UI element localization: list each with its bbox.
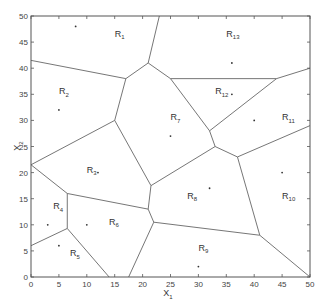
- voronoi-edge: [31, 60, 126, 78]
- voronoi-edge: [115, 79, 126, 121]
- x-tick-label: 40: [250, 280, 259, 289]
- site-point-r11: [253, 120, 255, 122]
- axis-ticks: 0510152025303540455005101520253035404550: [19, 12, 315, 289]
- region-label-r13: R13: [226, 29, 240, 41]
- site-point-r1: [75, 26, 77, 28]
- svg-text:X1: X1: [163, 288, 173, 300]
- x-tick-label: 15: [110, 280, 119, 289]
- region-label-r5: R5: [70, 248, 81, 260]
- region-label-r7: R7: [171, 112, 182, 124]
- y-tick-label: 10: [19, 221, 28, 230]
- x-tick-label: 10: [82, 280, 91, 289]
- x-tick-label: 5: [57, 280, 62, 289]
- site-point-r7: [170, 135, 172, 137]
- x-tick-label: 50: [306, 280, 315, 289]
- site-point-r3: [97, 172, 99, 174]
- voronoi-edge: [237, 126, 310, 157]
- voronoi-edge: [31, 165, 67, 194]
- region-label-r4: R4: [53, 201, 64, 213]
- voronoi-edge: [126, 63, 148, 79]
- y-tick-label: 15: [19, 195, 28, 204]
- site-point-r6: [86, 224, 88, 226]
- voronoi-edge: [31, 228, 67, 245]
- voronoi-edges: [31, 16, 310, 277]
- site-point-r4: [47, 224, 49, 226]
- region-label-r11: R11: [282, 112, 295, 124]
- voronoi-edge: [154, 222, 260, 235]
- voronoi-edge: [148, 186, 151, 209]
- plot-frame: [31, 16, 310, 277]
- voronoi-edge: [148, 16, 159, 63]
- x-tick-label: 35: [222, 280, 231, 289]
- voronoi-edge: [148, 63, 170, 79]
- y-tick-label: 45: [19, 38, 28, 47]
- site-point-r12: [231, 93, 233, 95]
- region-label-r8: R8: [187, 191, 198, 203]
- site-point-r9: [198, 266, 200, 268]
- y-tick-label: 35: [19, 90, 28, 99]
- y-tick-label: 0: [24, 273, 29, 282]
- x-tick-label: 45: [278, 280, 287, 289]
- voronoi-sites: [47, 26, 283, 268]
- region-label-r3: R3: [87, 165, 98, 177]
- y-tick-label: 5: [24, 247, 29, 256]
- site-point-r5: [58, 245, 60, 247]
- y-tick-label: 50: [19, 12, 28, 21]
- x-axis-label: X1: [163, 288, 173, 300]
- voronoi-edge: [67, 193, 148, 209]
- voronoi-edge: [237, 157, 259, 235]
- x-tick-label: 30: [194, 280, 203, 289]
- voronoi-edge: [129, 222, 154, 277]
- y-tick-label: 20: [19, 169, 28, 178]
- voronoi-edge: [215, 147, 237, 157]
- site-point-r8: [209, 187, 211, 189]
- region-label-r6: R6: [109, 217, 120, 229]
- voronoi-edge: [115, 120, 151, 185]
- x-tick-label: 0: [29, 280, 34, 289]
- y-tick-label: 40: [19, 64, 28, 73]
- site-point-r2: [58, 109, 60, 111]
- voronoi-edge: [148, 209, 154, 222]
- voronoi-edge: [260, 235, 310, 277]
- region-label-r10: R10: [282, 191, 296, 203]
- region-label-r2: R2: [59, 86, 70, 98]
- voronoi-edge: [151, 147, 215, 186]
- x-tick-label: 20: [138, 280, 147, 289]
- voronoi-edge: [31, 120, 115, 164]
- voronoi-edge: [277, 68, 310, 78]
- voronoi-diagram: R1R2R3R4R5R6R7R8R9R10R11R12R13 051015202…: [0, 0, 327, 306]
- y-tick-label: 30: [19, 116, 28, 125]
- region-label-r1: R1: [115, 29, 126, 41]
- site-point-r13: [231, 62, 233, 64]
- voronoi-edge: [210, 131, 216, 147]
- site-point-r10: [281, 172, 283, 174]
- region-label-r9: R9: [198, 243, 209, 255]
- region-label-r12: R12: [215, 86, 229, 98]
